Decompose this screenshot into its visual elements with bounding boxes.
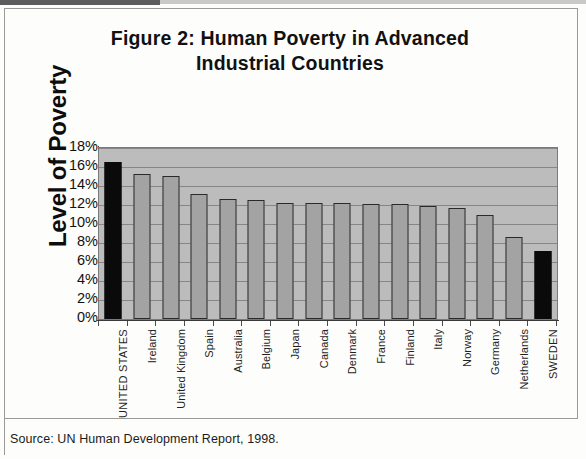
y-tick-label: 2% <box>54 290 98 306</box>
bar-slot <box>443 148 472 319</box>
x-tick-label: SWEDEN <box>547 329 559 379</box>
bar[interactable] <box>191 194 208 319</box>
bar[interactable] <box>105 162 122 319</box>
figure-page: Figure 2: Human Poverty in Advanced Indu… <box>0 0 586 459</box>
x-tick-mark <box>327 321 328 326</box>
y-tick-label: 8% <box>54 233 98 249</box>
x-tick-label: Finland <box>404 329 416 366</box>
bar-slot <box>214 148 243 319</box>
x-tick-mark <box>556 321 557 326</box>
y-tick-label: 10% <box>54 214 98 230</box>
x-tick-mark <box>270 321 271 326</box>
bar-slot <box>271 148 300 319</box>
bar[interactable] <box>391 204 408 319</box>
source-note: Source: UN Human Development Report, 199… <box>10 432 279 446</box>
x-tick-mark <box>527 321 528 326</box>
bar-slot <box>156 148 185 319</box>
bar-slot <box>185 148 214 319</box>
x-tick-mark <box>499 321 500 326</box>
bar[interactable] <box>133 174 150 319</box>
bar[interactable] <box>248 200 265 319</box>
scan-artifact-top-right <box>160 0 586 4</box>
x-tick-mark <box>184 321 185 326</box>
x-tick-label: Canada <box>318 329 330 368</box>
bar[interactable] <box>277 203 294 319</box>
x-tick-mark <box>241 321 242 326</box>
bar-slot <box>528 148 557 319</box>
x-tick-label: France <box>375 329 387 364</box>
bar-slot <box>99 148 128 319</box>
plot-area <box>98 147 558 320</box>
bar-slot <box>299 148 328 319</box>
x-tick-label: United Kingdom <box>175 329 187 409</box>
bar[interactable] <box>534 251 551 319</box>
x-tick-mark <box>442 321 443 326</box>
bar-slot <box>357 148 386 319</box>
x-tick-label: Norway <box>461 329 473 367</box>
chart-title-line-1: Figure 2: Human Poverty in Advanced <box>111 27 469 49</box>
bar[interactable] <box>448 208 465 319</box>
bar-slot <box>414 148 443 319</box>
x-tick-mark <box>127 321 128 326</box>
bar[interactable] <box>162 176 179 319</box>
x-tick-label: UNITED STATES <box>117 329 129 418</box>
y-tick-label: 18% <box>54 138 98 154</box>
bar-slot <box>471 148 500 319</box>
x-tick-mark <box>155 321 156 326</box>
bar-slot <box>128 148 157 319</box>
bar[interactable] <box>334 203 351 319</box>
x-tick-mark <box>298 321 299 326</box>
y-axis-tick-labels: 18%16%14%12%10%8%6%4%2%0% <box>44 147 98 320</box>
y-tick-label: 12% <box>54 195 98 211</box>
scan-artifact-top-left <box>0 0 160 5</box>
y-tick-label: 4% <box>54 271 98 287</box>
bar-slot <box>385 148 414 319</box>
y-tick-label: 14% <box>54 176 98 192</box>
bar[interactable] <box>305 203 322 319</box>
x-tick-mark <box>98 321 99 326</box>
bar[interactable] <box>506 237 523 319</box>
y-tick-label: 16% <box>54 157 98 173</box>
x-tick-mark <box>356 321 357 326</box>
y-tick-label: 6% <box>54 252 98 268</box>
chart-title: Figure 2: Human Poverty in Advanced Indu… <box>40 26 540 76</box>
bar-slot <box>500 148 529 319</box>
x-tick-label: Belgium <box>260 329 272 369</box>
x-axis-tick-labels: UNITED STATESIrelandUnited KingdomSpainA… <box>98 321 558 421</box>
x-tick-label: Ireland <box>146 329 158 363</box>
bars-group <box>99 148 557 319</box>
x-tick-mark <box>213 321 214 326</box>
bar-slot <box>328 148 357 319</box>
x-tick-mark <box>470 321 471 326</box>
x-tick-label: Denmark <box>346 329 358 374</box>
bar-slot <box>242 148 271 319</box>
x-tick-mark <box>384 321 385 326</box>
bar[interactable] <box>477 215 494 319</box>
chart-title-line-2: Industrial Countries <box>40 51 540 76</box>
x-tick-label: Netherlands <box>518 329 530 389</box>
bar[interactable] <box>219 199 236 319</box>
bar[interactable] <box>420 206 437 319</box>
x-tick-label: Spain <box>203 329 215 358</box>
y-tick-label: 0% <box>54 309 98 325</box>
x-tick-label: Japan <box>289 329 301 359</box>
bar[interactable] <box>362 204 379 319</box>
x-tick-label: Germany <box>489 329 501 375</box>
x-tick-mark <box>413 321 414 326</box>
x-tick-label: Italy <box>432 329 444 350</box>
x-tick-label: Australia <box>232 329 244 373</box>
